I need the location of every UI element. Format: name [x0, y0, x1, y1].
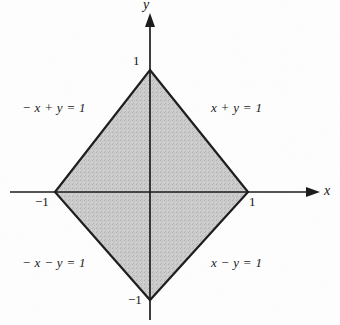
tick-label-y-negative: −1	[128, 292, 142, 308]
equation-label-bottom-right: x − y = 1	[211, 255, 262, 271]
equation-label-top-left: − x + y = 1	[22, 100, 86, 116]
equation-label-top-right: x + y = 1	[211, 100, 262, 116]
equation-label-bottom-left: − x − y = 1	[22, 255, 86, 271]
math-figure: x y 1 −1 1 −1 − x + y = 1 x + y = 1 − x …	[0, 0, 340, 325]
tick-label-x-positive: 1	[249, 194, 256, 210]
diagram-canvas	[0, 0, 340, 325]
x-axis-arrowhead	[306, 187, 320, 197]
x-axis-label: x	[324, 183, 330, 199]
y-axis-arrowhead	[145, 13, 155, 27]
tick-label-x-negative: −1	[35, 194, 49, 210]
tick-label-y-positive: 1	[133, 53, 140, 69]
y-axis-label: y	[143, 0, 149, 13]
